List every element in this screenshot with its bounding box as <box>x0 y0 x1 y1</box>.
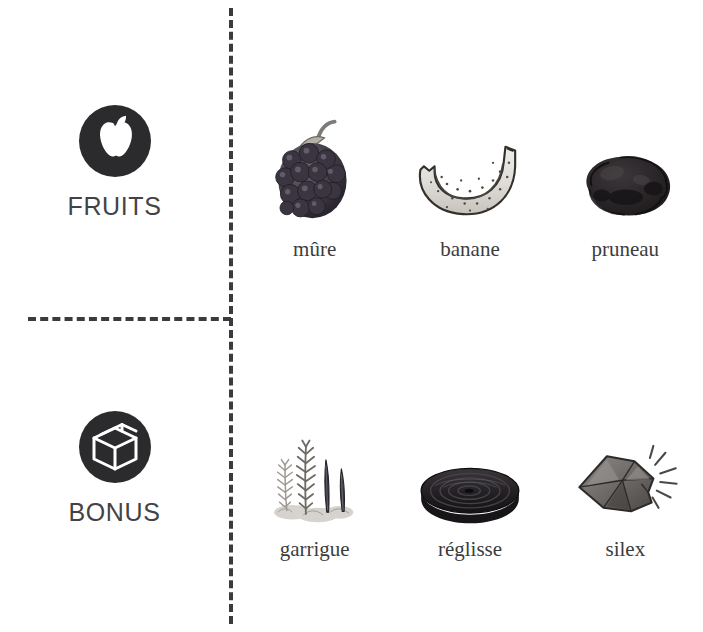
garrigue-herbs-illustration <box>265 415 365 525</box>
apple-in-circle-icon <box>78 104 152 178</box>
item-label: mûre <box>293 239 336 260</box>
item-label: silex <box>605 539 645 560</box>
category-label: FRUITS <box>68 194 162 219</box>
item-mure: mûre <box>240 115 390 260</box>
blackberry-illustration <box>268 115 362 225</box>
item-pruneau: pruneau <box>550 115 700 260</box>
flint-stone-illustration <box>569 415 681 525</box>
category-label: BONUS <box>69 500 161 525</box>
horizontal-dashed-divider <box>28 317 231 321</box>
item-label: réglisse <box>438 539 502 560</box>
item-reglisse: réglisse <box>395 415 545 560</box>
item-label: pruneau <box>591 239 659 260</box>
category-fruits: FRUITS <box>0 104 229 219</box>
category-bonus: BONUS <box>0 410 229 525</box>
box-in-circle-icon <box>78 410 152 484</box>
item-row-fruits: mûre <box>237 100 703 260</box>
item-silex: silex <box>550 415 700 560</box>
vertical-dashed-divider <box>229 8 233 624</box>
licorice-wheel-illustration <box>414 415 526 525</box>
item-row-bonus: garrigue <box>237 408 703 560</box>
item-garrigue: garrigue <box>240 415 390 560</box>
item-label: banane <box>440 239 499 260</box>
item-label: garrigue <box>280 539 350 560</box>
item-banane: banane <box>395 115 545 260</box>
prune-illustration <box>569 115 681 225</box>
banana-illustration <box>408 115 532 225</box>
